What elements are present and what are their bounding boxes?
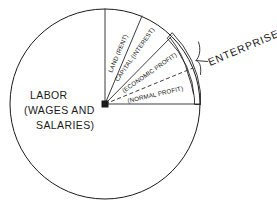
label-enterprise: ENTERPRISE [206, 27, 277, 68]
enterprise-brace-icon [196, 42, 201, 75]
pie-center-hub [102, 101, 109, 108]
label-normal-profit: (NORMAL PROFIT) [127, 84, 184, 104]
enterprise-exploded-band [168, 33, 201, 105]
pie-chart-canvas: LABOR (WAGES AND SALARIES) LAND (RENT) C… [0, 0, 277, 209]
pie-chart-figure: LABOR (WAGES AND SALARIES) LAND (RENT) C… [0, 0, 277, 209]
label-labor-line3: SALARIES) [36, 119, 94, 131]
label-labor-line1: LABOR [30, 89, 68, 101]
label-labor-line2: (WAGES AND [24, 104, 95, 116]
